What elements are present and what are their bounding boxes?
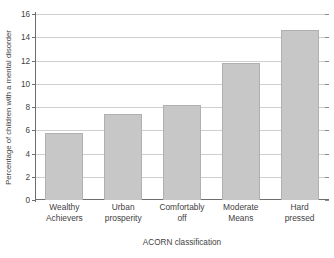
x-axis-category-label: Urbanprosperity xyxy=(94,202,153,223)
y-axis-tick-label: 6 xyxy=(25,126,30,135)
x-axis-category-label-line: Wealthy xyxy=(35,202,94,213)
y-axis-tick-label: 0 xyxy=(25,196,30,205)
bar-chart: Percentage of children with a mental dis… xyxy=(0,0,334,258)
x-axis-category-label: Comfortablyoff xyxy=(153,202,212,223)
bar xyxy=(222,63,260,200)
bar xyxy=(163,105,201,200)
bar xyxy=(45,133,83,200)
bar xyxy=(104,114,142,200)
x-axis-category-label-line: Comfortably xyxy=(153,202,212,213)
x-axis-category-label-line: Urban xyxy=(94,202,153,213)
y-axis-tick-label: 16 xyxy=(21,10,30,19)
x-axis-category-label: ModerateMeans xyxy=(211,202,270,223)
bars-group xyxy=(35,14,329,200)
y-axis-title-text: Percentage of children with a mental dis… xyxy=(4,30,13,185)
y-axis-tick-mark-right xyxy=(325,200,329,201)
bar xyxy=(281,30,319,200)
x-axis-category-label-line: Hard xyxy=(270,202,329,213)
y-axis-tick-label: 2 xyxy=(25,172,30,181)
x-axis-category-label: WealthyAchievers xyxy=(35,202,94,223)
y-axis-tick-label: 14 xyxy=(21,33,30,42)
y-axis-title: Percentage of children with a mental dis… xyxy=(0,0,16,215)
plot-area xyxy=(35,14,329,200)
x-axis-category-labels: WealthyAchieversUrbanprosperityComfortab… xyxy=(35,202,329,234)
x-axis-category-label-line: Achievers xyxy=(35,213,94,224)
y-axis-tick-label: 10 xyxy=(21,79,30,88)
y-axis-tick-label: 12 xyxy=(21,56,30,65)
y-axis-tick-label: 4 xyxy=(25,149,30,158)
x-axis-category-label-line: prosperity xyxy=(94,213,153,224)
y-axis-tick-labels: 0246810121416 xyxy=(16,14,32,200)
x-axis-category-label-line: pressed xyxy=(270,213,329,224)
y-axis-tick-label: 8 xyxy=(25,103,30,112)
x-axis-category-label-line: Moderate xyxy=(211,202,270,213)
x-axis-category-label-line: off xyxy=(153,213,212,224)
x-axis-category-label-line: Means xyxy=(211,213,270,224)
x-axis-category-label: Hardpressed xyxy=(270,202,329,223)
x-axis-title: ACORN classification xyxy=(35,238,329,247)
